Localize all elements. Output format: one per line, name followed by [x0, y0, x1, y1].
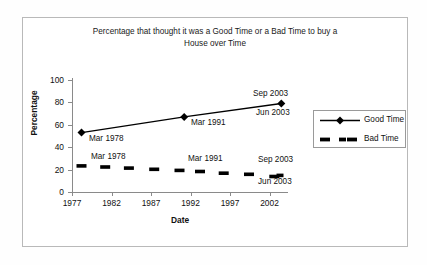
annotation-bad-sep-2003: Sep 2003 [258, 155, 293, 164]
chart-figure: Percentage that thought it was a Good Ti… [0, 0, 427, 265]
legend-item-bad-time[interactable]: Bad Time [314, 130, 407, 149]
legend-swatch-good-time [319, 111, 361, 130]
annotation-bad-mar-1978: Mar 1978 [91, 152, 126, 161]
series-good-time-marker-3 [277, 100, 285, 108]
annotation-good-sep-2003: Sep 2003 [253, 89, 288, 98]
chart-legend: Good Time Bad Time [313, 110, 406, 148]
annotation-good-mar-1991: Mar 1991 [191, 118, 226, 127]
annotation-bad-mar-1991: Mar 1991 [188, 154, 223, 163]
legend-swatch-bad-time [319, 130, 361, 149]
annotation-good-mar-1978: Mar 1978 [89, 134, 124, 143]
legend-label-good-time: Good Time [364, 115, 404, 124]
annotation-bad-jun-2003: Jun 2003 [258, 177, 292, 186]
series-good-time-marker-1 [78, 129, 86, 137]
annotation-good-jun-2003: Jun 2003 [256, 108, 290, 117]
legend-item-good-time[interactable]: Good Time [314, 111, 407, 130]
series-good-time-marker-2 [180, 113, 188, 121]
legend-label-bad-time: Bad Time [364, 134, 399, 143]
series-bad-time-markers [77, 164, 284, 178]
